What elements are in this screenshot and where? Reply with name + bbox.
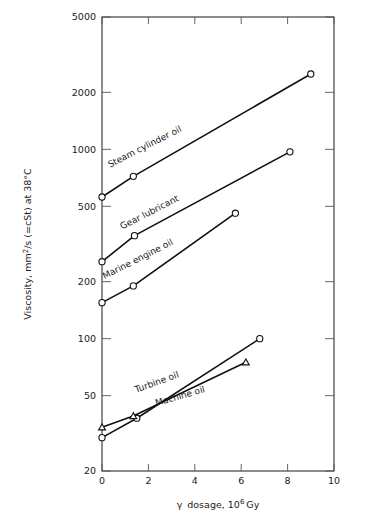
- x-tick-label: 8: [285, 475, 291, 486]
- x-axis-title-unit: Gy: [246, 499, 259, 510]
- x-tick-label: 10: [328, 475, 340, 486]
- x-axis-title: γdosage, 106Gy: [177, 498, 260, 510]
- y-tick-label: 1000: [72, 144, 96, 155]
- series-gear-lubricant: [99, 149, 293, 265]
- x-axis-ticks-top: [102, 17, 334, 24]
- x-axis-ticks-bottom: [102, 464, 334, 471]
- y-axis-ticks-right: [325, 17, 334, 471]
- data-point-circle: [99, 194, 105, 200]
- series-line: [102, 339, 260, 438]
- data-point-circle: [287, 149, 293, 155]
- x-axis-title-word: dosage, 10: [187, 499, 240, 510]
- chart-figure: 2050100200500100020005000 0246810 Steam …: [0, 0, 373, 521]
- data-point-circle: [131, 233, 137, 239]
- y-axis-title-prefix: Viscosity, mm: [22, 253, 33, 319]
- series-label: Turbine oil: [132, 369, 180, 395]
- series-steam-cylinder-oil: [99, 71, 314, 200]
- data-point-circle: [130, 283, 136, 289]
- data-point-circle: [257, 336, 263, 342]
- y-tick-label: 500: [78, 201, 96, 212]
- x-tick-label: 2: [145, 475, 151, 486]
- x-axis-title-gamma: γ: [177, 499, 183, 510]
- chart-plot-area: 2050100200500100020005000 0246810 Steam …: [0, 0, 373, 521]
- series-annotations: Steam cylinder oilGear lubricantMarine e…: [101, 124, 206, 408]
- x-tick-label: 0: [99, 475, 105, 486]
- plot-frame-rect: [102, 17, 334, 471]
- series-line: [102, 152, 290, 262]
- x-tick-label: 4: [192, 475, 198, 486]
- data-point-circle: [99, 300, 105, 306]
- y-axis-title: Viscosity, mm2/s (=cSt) at 38°C: [22, 168, 33, 320]
- series-label: Steam cylinder oil: [106, 124, 183, 170]
- series-label: Gear lubricant: [118, 193, 180, 231]
- data-point-circle: [308, 71, 314, 77]
- y-tick-label: 100: [78, 333, 96, 344]
- y-tick-label: 20: [84, 465, 96, 476]
- svg-text:γdosage, 106Gy: γdosage, 106Gy: [177, 498, 260, 510]
- data-point-circle: [99, 259, 105, 265]
- data-point-circle: [130, 173, 136, 179]
- data-point-triangle: [242, 359, 249, 365]
- y-tick-label: 2000: [72, 87, 96, 98]
- y-tick-label: 200: [78, 276, 96, 287]
- y-axis-tick-labels: 2050100200500100020005000: [72, 11, 96, 476]
- series-turbine-oil: [99, 336, 263, 441]
- x-tick-label: 6: [238, 475, 244, 486]
- y-tick-label: 50: [84, 390, 96, 401]
- series-label: Machine oil: [154, 384, 206, 408]
- data-point-circle: [232, 210, 238, 216]
- x-axis-tick-labels: 0246810: [99, 475, 340, 486]
- series-label: Marine engine oil: [101, 237, 175, 281]
- y-axis-title-suffix: /s (=cSt) at 38°C: [22, 168, 33, 249]
- axis-frame: [102, 17, 334, 471]
- x-axis-title-exponent: 6: [240, 498, 245, 506]
- y-tick-label: 5000: [72, 11, 96, 22]
- svg-text:Viscosity, mm2/s (=cSt) at 38°: Viscosity, mm2/s (=cSt) at 38°C: [22, 168, 33, 320]
- data-point-circle: [99, 435, 105, 441]
- y-axis-ticks-left: [102, 17, 111, 471]
